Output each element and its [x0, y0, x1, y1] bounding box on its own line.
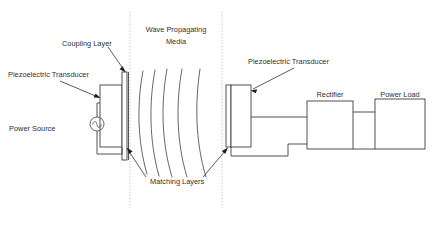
piezo-left-leader — [60, 81, 98, 97]
label-wave-media-line2: Media — [166, 37, 187, 46]
label-rectifier: Rectifier — [316, 90, 344, 99]
label-power-load: Power Load — [380, 90, 419, 99]
wave-arc-3 — [163, 69, 172, 177]
rectifier-block — [307, 101, 353, 149]
label-wave-media-line1: Wave Propagating — [146, 25, 207, 34]
power-load-block — [375, 99, 425, 149]
label-piezo-left: Piezoelectric Transducer — [8, 70, 89, 79]
label-coupling-layer: Coupling Layer — [62, 39, 112, 48]
receiver-piezo-block — [231, 85, 251, 147]
diagram-canvas: Coupling Layer Wave Propagating Media Pi… — [0, 0, 441, 233]
wave-arc-5 — [197, 69, 206, 177]
piezo-right-leader — [253, 68, 294, 89]
wave-arc-1 — [139, 71, 147, 174]
label-power-source: Power Source — [9, 124, 55, 133]
power-load-block-group — [375, 99, 425, 149]
coupling-layer-strip — [122, 72, 127, 160]
transmitter-assembly — [97, 72, 129, 160]
piezo-right-arrowhead — [251, 89, 258, 93]
coupling-layer-leader — [108, 47, 124, 70]
receiver-assembly — [226, 85, 307, 156]
rectifier-block-group — [307, 101, 375, 149]
matching-layers-leader-left — [128, 150, 146, 177]
ultrasonic-power-transfer-figure: Coupling Layer Wave Propagating Media Pi… — [0, 0, 441, 233]
wave-arc-4 — [178, 69, 187, 177]
label-piezo-right: Piezoelectric Transducer — [248, 57, 329, 66]
wave-arc-2 — [151, 70, 159, 176]
matching-layers-leader-right — [203, 150, 226, 177]
transmitter-piezo-block — [100, 85, 122, 147]
receiver-matching-layer-strip — [226, 85, 231, 147]
leader-lines — [60, 47, 294, 177]
label-matching-layers: Matching Layers — [150, 177, 205, 186]
piezo-left-arrowhead — [94, 94, 101, 98]
matching-layers-arrowhead-right — [222, 148, 228, 155]
wave-arcs-group — [139, 69, 206, 177]
text-labels: Coupling Layer Wave Propagating Media Pi… — [8, 25, 420, 186]
